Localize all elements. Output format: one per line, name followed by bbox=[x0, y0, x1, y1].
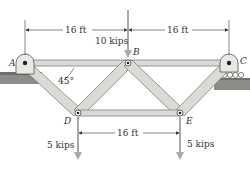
load-label-e: 5 kips bbox=[187, 139, 215, 149]
member-bc bbox=[128, 60, 229, 66]
node-label-e: E bbox=[185, 116, 193, 126]
angle-label: 45° bbox=[58, 76, 74, 86]
load-label-d: 5 kips bbox=[47, 140, 75, 150]
member-bd bbox=[74, 60, 132, 116]
dimension-label-bottom: 16 ft bbox=[117, 128, 139, 138]
dimension-label-top-left: 16 ft bbox=[65, 25, 87, 35]
load-arrow-d bbox=[74, 117, 82, 160]
load-arrow-b bbox=[124, 10, 132, 58]
member-be bbox=[124, 60, 184, 116]
node-label-b: B bbox=[132, 47, 140, 57]
truss-members bbox=[20, 60, 233, 116]
member-de bbox=[78, 110, 180, 116]
load-label-b: 10 kips bbox=[95, 36, 128, 46]
roller-support-c bbox=[220, 54, 238, 72]
dimension-label-top-right: 16 ft bbox=[167, 25, 189, 35]
pin-support-a bbox=[16, 54, 34, 74]
node-label-d: D bbox=[63, 116, 71, 126]
node-label-c: C bbox=[240, 56, 247, 66]
node-label-a: A bbox=[8, 58, 16, 68]
member-ab bbox=[25, 60, 128, 66]
truss-diagram: 16 ft 16 ft 10 kips A B C D E 45° 16 ft … bbox=[0, 0, 250, 171]
load-arrow-e bbox=[176, 117, 184, 160]
